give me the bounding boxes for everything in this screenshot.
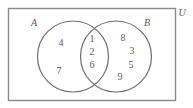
set-b-label: B: [144, 18, 150, 28]
set-a-label: A: [31, 18, 37, 28]
intersection-member: 6: [90, 60, 95, 70]
set-b-member: 3: [130, 46, 135, 56]
venn-diagram-canvas: [0, 0, 193, 108]
universal-set-label: U: [178, 8, 185, 18]
set-a-circle: [38, 21, 109, 92]
set-a-member: 7: [57, 66, 62, 76]
set-b-member: 5: [129, 60, 134, 70]
intersection-member: 1: [90, 34, 95, 44]
intersection-member: 2: [90, 47, 95, 57]
venn-diagram: U A B 4 7 1 2 6 8 3 5 9: [0, 0, 193, 108]
set-b-member: 9: [118, 72, 123, 82]
set-b-member: 8: [121, 33, 126, 43]
set-a-member: 4: [59, 38, 64, 48]
